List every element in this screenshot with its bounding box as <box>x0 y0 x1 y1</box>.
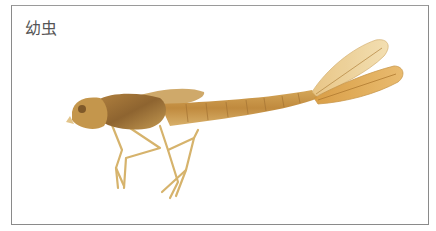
thorax <box>98 94 166 130</box>
eye <box>78 105 86 113</box>
legs <box>112 125 198 198</box>
head <box>72 98 107 129</box>
damselfly-nymph-illustration <box>0 0 436 231</box>
